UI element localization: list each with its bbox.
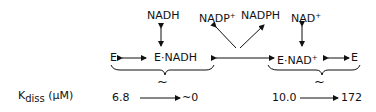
kdiss-right-from: 10.0: [272, 92, 297, 104]
enzyme-free-left: E: [110, 52, 117, 64]
enzyme-free-right: E: [351, 52, 358, 64]
nadp-plus-arrow: [216, 27, 236, 48]
enzyme-nadh-complex: E·NADH: [154, 52, 197, 64]
approx-left: ~: [157, 76, 168, 88]
nadph-arrow: [240, 25, 264, 48]
approx-right: ~: [314, 76, 325, 88]
nadh-label: NADH: [147, 10, 180, 22]
nadp-plus-label: NADP+: [199, 10, 236, 25]
kdiss-left-from: 6.8: [112, 92, 130, 104]
kdiss-left-to: ~0: [182, 92, 198, 104]
nadph-label: NADPH: [241, 10, 280, 22]
kdiss-right-to: 172: [341, 92, 362, 104]
enzyme-nad-plus-complex: E·NAD+: [277, 52, 318, 67]
kdiss-label: Kdiss (µM): [18, 90, 73, 105]
nad-plus-label: NAD+: [291, 10, 321, 25]
